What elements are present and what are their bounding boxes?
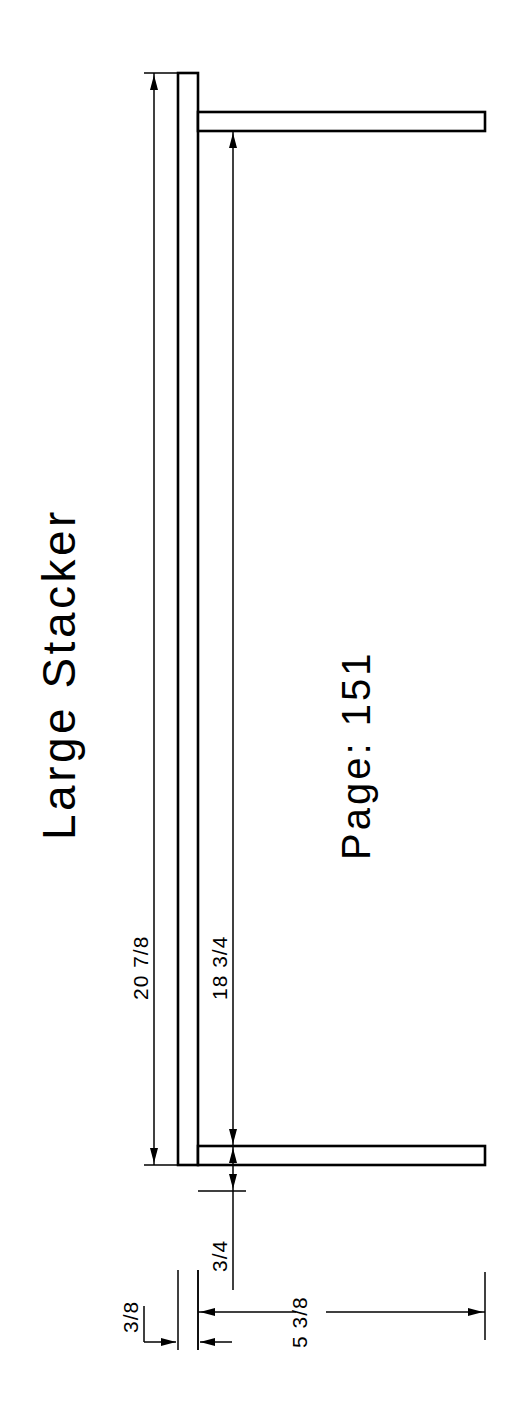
arrow-left [200, 1338, 215, 1346]
dimension-label-shelf-span: 18 3/4 [208, 936, 231, 1000]
technical-drawing-page: 20 7/8 18 3/4 3/4 [0, 0, 506, 1426]
arrow-down [229, 1129, 237, 1144]
arrow-up [150, 75, 158, 90]
dimension-shelf-span: 18 3/4 [208, 131, 237, 1146]
arrow-down [150, 1148, 158, 1163]
arrow-left [200, 1308, 215, 1316]
top-shelf-outline [198, 112, 485, 131]
dimension-label-shelf-thickness: 3/4 [208, 1240, 231, 1272]
arrow-right [468, 1308, 483, 1316]
dimension-label-shelf-depth: 5 3/8 [288, 1296, 311, 1348]
drawing-title: Large Stacker [33, 508, 85, 840]
dimension-label-overall-height: 20 7/8 [129, 936, 152, 1000]
arrow-right [161, 1338, 176, 1346]
dimension-shelf-thickness: 3/4 [198, 1146, 246, 1290]
page-label: Page: 151 [334, 651, 378, 860]
arrow-up [229, 133, 237, 148]
dimension-shelf-depth: 5 3/8 [198, 1270, 485, 1350]
arrow-down [229, 1174, 237, 1189]
bottom-shelf-outline [198, 1146, 485, 1165]
dimension-label-post-thickness: 3/8 [119, 1301, 142, 1333]
dimension-overall-height: 20 7/8 [129, 73, 185, 1165]
part-geometry [178, 73, 485, 1165]
stacker-elevation-drawing: 20 7/8 18 3/4 3/4 [0, 0, 506, 1426]
dimension-post-thickness: 3/8 [119, 1270, 232, 1350]
vertical-post-outline [178, 73, 198, 1165]
